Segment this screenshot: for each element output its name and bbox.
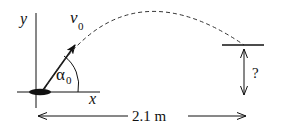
y-axis-label: y bbox=[18, 10, 28, 28]
distance-label: 2.1 m bbox=[132, 108, 167, 124]
projectile-diagram: y x v 0 α 0 ? 2.1 m bbox=[0, 0, 281, 130]
projectile-ball bbox=[29, 89, 51, 95]
unknown-height-label: ? bbox=[252, 65, 259, 81]
velocity-subscript: 0 bbox=[78, 20, 84, 32]
angle-label: α bbox=[56, 65, 65, 84]
angle-subscript: 0 bbox=[66, 74, 72, 86]
diagram-svg: y x v 0 α 0 ? 2.1 m bbox=[0, 0, 281, 130]
x-axis-label: x bbox=[88, 90, 96, 107]
velocity-label: v bbox=[70, 8, 78, 27]
